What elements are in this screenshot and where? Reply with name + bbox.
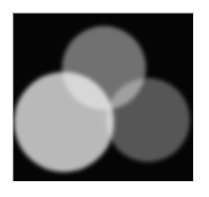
right-circle: [106, 78, 190, 162]
dark-plate: [13, 13, 193, 181]
left-circle: [14, 72, 114, 172]
image-canvas: Additive mixing of three overlapping cir…: [0, 0, 209, 197]
